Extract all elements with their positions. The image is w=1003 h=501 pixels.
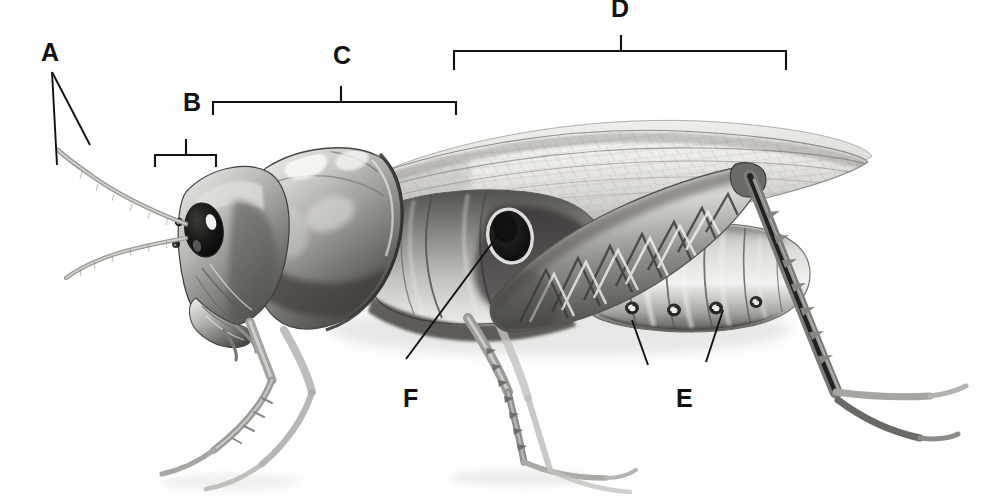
label-e: E [676,386,693,411]
label-f: F [403,386,418,411]
graphite-grain [0,0,1003,501]
label-d: D [611,0,629,21]
figure-canvas: ABCDEF [0,0,1003,501]
label-c: C [333,43,351,68]
grasshopper-illustration [0,0,1003,501]
label-a: A [41,40,59,65]
grasshopper-body [0,0,1003,501]
label-b: B [183,90,201,115]
